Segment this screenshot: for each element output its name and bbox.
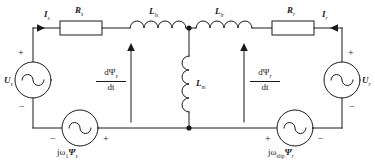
rotor-source-minus-mark: − (349, 102, 355, 112)
rotor-emf-source-label: jωslipΨr (268, 148, 294, 159)
rotor-flux-arrowhead (240, 43, 248, 51)
rotor-emf-plus-mark: + (265, 134, 271, 144)
stator-flux-derivative-label: dΨs dt (96, 68, 126, 92)
rotor-current-arrowhead (330, 24, 338, 32)
stator-current-arrowhead (37, 24, 45, 32)
stator-resistor-label: Rs (75, 6, 83, 17)
rotor-leakage-inductor-label: Llr (215, 7, 224, 18)
stator-leakage-inductor-coil (130, 21, 186, 28)
stator-source-plus-mark: + (18, 48, 24, 58)
stator-flux-arrowhead (127, 43, 135, 51)
rotor-leakage-inductor-coil (196, 21, 252, 28)
rotor-flux-derivative-numerator: dΨr (250, 68, 280, 80)
stator-flux-derivative-denominator: dt (96, 83, 126, 92)
stator-resistor-body (60, 21, 102, 35)
stator-leakage-inductor-label: Lls (149, 7, 158, 18)
rotor-current-label: Ir (322, 10, 328, 21)
stator-emf-source-label: jω1Ψs (57, 148, 78, 159)
rotor-resistor-body (272, 21, 314, 35)
stator-voltage-source-label: Us (4, 76, 13, 87)
stator-flux-derivative-numerator: dΨs (96, 68, 126, 80)
stator-emf-plus-mark: + (103, 134, 109, 144)
junction-dot-top (186, 25, 191, 30)
stator-emf-minus-mark: − (50, 134, 56, 144)
magnetizing-inductor-label: Lm (196, 79, 206, 90)
stator-source-minus-mark: − (19, 102, 25, 112)
rotor-flux-derivative-label: dΨr dt (250, 68, 280, 92)
rotor-emf-minus-mark: − (318, 134, 324, 144)
stator-current-label: Is (44, 10, 50, 21)
rotor-source-plus-mark: + (348, 48, 354, 58)
rotor-flux-derivative-denominator: dt (250, 83, 280, 92)
magnetizing-inductor-coil (182, 56, 189, 112)
circuit-diagram-canvas: Is Ir Rs Rr Lls Llr Lm Us Ur jω1Ψs jωsli… (0, 0, 375, 160)
rotor-voltage-source-label: Ur (362, 76, 371, 87)
rotor-resistor-label: Rr (287, 6, 295, 17)
